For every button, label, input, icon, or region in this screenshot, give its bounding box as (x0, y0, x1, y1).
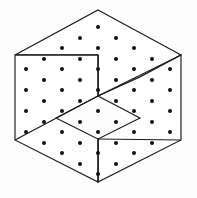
lattice-dot (96, 46, 100, 50)
lattice-dot (60, 130, 64, 134)
lattice-dot (168, 109, 172, 113)
lattice-dot (132, 109, 136, 113)
lattice-dot (150, 57, 154, 61)
lattice-dot (114, 162, 118, 166)
lattice-dot (42, 120, 46, 124)
lattice-dot (24, 130, 28, 134)
lattice-dot (150, 99, 154, 103)
lattice-dot (132, 46, 136, 50)
hexagon-pinwheel-figure (0, 0, 197, 198)
lattice-dot (114, 141, 118, 145)
lattice-dot (78, 78, 82, 82)
lattice-dot (114, 36, 118, 40)
lattice-dot (60, 151, 64, 155)
lattice-dot (78, 162, 82, 166)
lattice-dot (96, 172, 100, 176)
lattice-dot (96, 130, 100, 134)
lattice-dot (96, 151, 100, 155)
lattice-dot (60, 109, 64, 113)
lattice-dot (114, 78, 118, 82)
lattice-dot (78, 36, 82, 40)
lattice-dot (114, 120, 118, 124)
lattice-dot (114, 57, 118, 61)
lattice-dot (60, 67, 64, 71)
lattice-dot (132, 67, 136, 71)
lattice-dot (42, 78, 46, 82)
lattice-dot (42, 141, 46, 145)
lattice-dot (168, 67, 172, 71)
lattice-dot (96, 109, 100, 113)
lattice-dot (42, 57, 46, 61)
lattice-dot (150, 120, 154, 124)
lattice-dot (114, 99, 118, 103)
lattice-dot (24, 88, 28, 92)
lattice-dot (60, 46, 64, 50)
lattice-dot (150, 78, 154, 82)
lattice-dot (96, 67, 100, 71)
lattice-dot (42, 99, 46, 103)
lattice-dot (78, 141, 82, 145)
lattice-dot (78, 57, 82, 61)
lattice-dot (78, 99, 82, 103)
lattice-dot (132, 88, 136, 92)
lattice-dot (96, 25, 100, 29)
lattice-dot (96, 88, 100, 92)
figure-container (0, 0, 197, 198)
lattice-dot (132, 151, 136, 155)
lattice-dot (78, 120, 82, 124)
lattice-dot (150, 141, 154, 145)
lattice-dot (60, 88, 64, 92)
lattice-dot (168, 88, 172, 92)
lattice-dot (132, 130, 136, 134)
lattice-dot (168, 130, 172, 134)
lattice-dot (24, 67, 28, 71)
lattice-dot (24, 109, 28, 113)
